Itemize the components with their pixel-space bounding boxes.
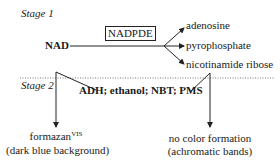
nad-label: NAD — [45, 40, 69, 51]
product-pyrophosphate: pyrophosphate — [186, 40, 251, 51]
arrow-adenosine — [164, 28, 184, 46]
no-color-outcome: no color formation — [160, 133, 260, 144]
enzyme-box: NADPDE — [105, 26, 156, 41]
reagents-label: ADH; ethanol; NBT; PMS — [79, 85, 203, 96]
formazan-note: (dark blue background) — [6, 145, 106, 156]
formazan-label: formazan — [30, 130, 72, 142]
product-nicotinamide-ribose: nicotinamide ribose — [186, 59, 273, 70]
formazan-outcome: formazanVIS — [6, 131, 106, 142]
stage-2-label: Stage 2 — [21, 80, 54, 91]
stage-1-label: Stage 1 — [21, 8, 54, 19]
formazan-superscript: VIS — [71, 130, 82, 138]
arrow-nicotinamide-ribose — [164, 46, 184, 64]
product-adenosine: adenosine — [186, 20, 230, 31]
no-color-note: (achromatic bands) — [160, 146, 260, 157]
